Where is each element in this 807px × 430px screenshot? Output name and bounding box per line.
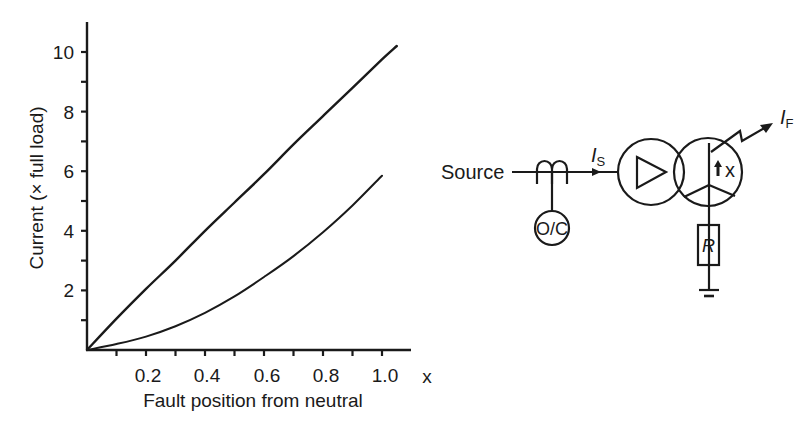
fault-current-curve (87, 46, 397, 350)
fault-position-arrow-icon (714, 160, 722, 176)
earth-icon (699, 290, 719, 296)
fault-current-label: IF (780, 106, 794, 131)
y-tick-label-2: 2 (63, 280, 74, 301)
x-tick-label-0.8: 0.8 (313, 365, 339, 386)
fault-position-label: x (725, 159, 735, 181)
source-label: Source (441, 161, 504, 183)
figure: Current (× full load) 2 4 6 8 10 0.2 0.4… (0, 0, 807, 430)
x-variable-label: x (422, 366, 432, 387)
star-arm-right (709, 185, 735, 196)
y-tick-label-4: 4 (63, 221, 74, 242)
transformer-fault-diagram: Source O/C IS x (441, 106, 794, 296)
resistor-label: R (702, 236, 715, 256)
y-tick-label-6: 6 (63, 161, 74, 182)
source-current-arrow-icon (592, 168, 601, 176)
x-tick-label-0.6: 0.6 (254, 365, 280, 386)
x-axis-title: Fault position from neutral (143, 390, 363, 411)
y-axis-title: Current (× full load) (26, 106, 47, 269)
relay-label: O/C (536, 219, 568, 239)
y-tick-label-8: 8 (63, 102, 74, 123)
x-tick-label-0.4: 0.4 (194, 365, 221, 386)
x-tick-label-1.0: 1.0 (372, 365, 398, 386)
y-tick-label-10: 10 (53, 42, 74, 63)
star-arm-left (684, 185, 709, 197)
fault-current-arrowhead-icon (760, 123, 773, 133)
delta-triangle-icon (637, 157, 666, 188)
fault-current-chart: Current (× full load) 2 4 6 8 10 0.2 0.4… (26, 22, 432, 411)
x-tick-label-0.2: 0.2 (135, 365, 161, 386)
source-current-label: IS (591, 144, 606, 169)
